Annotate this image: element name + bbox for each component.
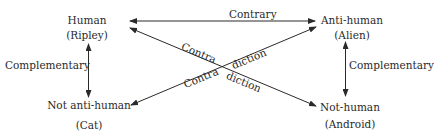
node-nothuman-term: Not-human [320,102,380,113]
contradiction-arrow-antihuman-notantihuman [131,27,316,105]
edge-label-right-complementary: Complementary [349,60,434,71]
edge-label-contrary: Contrary [229,9,277,20]
node-human-term: Human [68,15,107,26]
node-antihuman-example: (Alien) [334,30,369,41]
node-nothuman-example: (Android) [325,119,376,130]
node-antihuman-term: Anti-human [321,15,383,26]
contradiction-arrow-human-nothuman [130,28,316,106]
node-human-example: (Ripley) [66,30,108,41]
node-notantihuman-term: Not anti-human [47,100,131,111]
node-notantihuman-example: (Cat) [76,120,103,131]
edge-label-left-complementary: Complementary [5,60,90,71]
